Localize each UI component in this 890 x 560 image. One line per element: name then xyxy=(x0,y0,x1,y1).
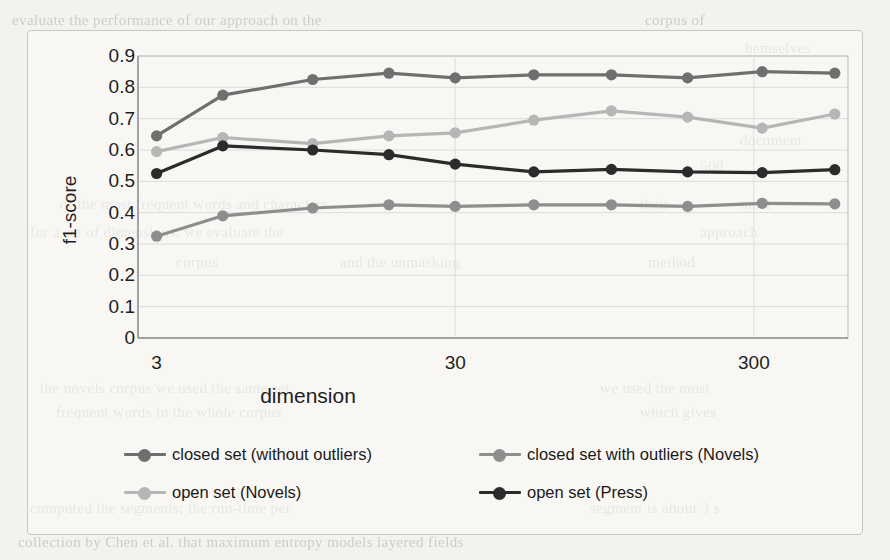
legend-item-label: open set (Press) xyxy=(527,484,648,501)
data-point xyxy=(217,140,228,151)
x-axis-tick-label: 30 xyxy=(445,353,466,372)
data-point xyxy=(682,166,693,177)
x-axis-tick-label: 3 xyxy=(151,353,162,372)
data-point xyxy=(682,72,693,83)
data-point xyxy=(682,112,693,123)
data-point xyxy=(151,231,162,242)
data-point xyxy=(383,199,394,210)
data-point xyxy=(450,201,461,212)
data-point xyxy=(757,167,768,178)
x-axis-tick-label: 300 xyxy=(738,353,770,372)
data-point xyxy=(528,199,539,210)
data-point xyxy=(151,130,162,141)
data-point xyxy=(217,210,228,221)
legend-swatch-icon xyxy=(124,447,166,461)
legend-item-label: open set (Novels) xyxy=(172,484,301,501)
data-point xyxy=(450,159,461,170)
series-line xyxy=(157,203,835,236)
legend-item[interactable]: closed set with outliers (Novels) xyxy=(479,446,759,463)
data-point xyxy=(606,69,617,80)
data-point xyxy=(307,144,318,155)
data-point xyxy=(450,72,461,83)
data-point xyxy=(151,146,162,157)
x-axis-title: dimension xyxy=(28,384,588,408)
series-line xyxy=(157,111,835,152)
series-3 xyxy=(151,140,840,179)
legend-swatch-icon xyxy=(124,485,166,499)
data-point xyxy=(757,66,768,77)
data-point xyxy=(829,198,840,209)
data-point xyxy=(757,123,768,134)
data-point xyxy=(606,164,617,175)
data-point xyxy=(307,202,318,213)
data-point xyxy=(528,166,539,177)
series-0 xyxy=(151,66,840,141)
data-point xyxy=(217,90,228,101)
legend-item-label: closed set with outliers (Novels) xyxy=(527,446,759,463)
legend-swatch-icon xyxy=(479,485,521,499)
legend-item-label: closed set (without outliers) xyxy=(172,446,372,463)
background-text-line: evaluate the performance of our approach… xyxy=(12,12,322,29)
series-2 xyxy=(151,105,840,157)
data-point xyxy=(606,105,617,116)
series-1 xyxy=(151,198,840,242)
data-point xyxy=(450,127,461,138)
data-point xyxy=(151,168,162,179)
legend-item[interactable]: open set (Press) xyxy=(479,484,648,501)
background-text-line: corpus of xyxy=(645,12,705,29)
data-point xyxy=(682,201,693,212)
legend-item[interactable]: closed set (without outliers) xyxy=(124,446,372,463)
legend-item[interactable]: open set (Novels) xyxy=(124,484,301,501)
background-text-line: collection by Chen et al. that maximum e… xyxy=(18,534,464,551)
data-point xyxy=(528,69,539,80)
data-point xyxy=(307,74,318,85)
plot-frame xyxy=(138,56,848,338)
data-point xyxy=(383,130,394,141)
data-point xyxy=(606,199,617,210)
legend-swatch-icon xyxy=(479,447,521,461)
data-point xyxy=(829,108,840,119)
chart-figure: f1-score 00.10.20.30.40.50.60.70.80.9 33… xyxy=(27,30,863,535)
chart-plot-container: f1-score 00.10.20.30.40.50.60.70.80.9 33… xyxy=(28,31,864,536)
x-axis-tick-labels: 330300 xyxy=(28,353,864,379)
data-point xyxy=(757,198,768,209)
data-point xyxy=(829,68,840,79)
data-point xyxy=(829,164,840,175)
data-point xyxy=(383,68,394,79)
chart-legend: closed set (without outliers)closed set … xyxy=(124,446,824,516)
data-point xyxy=(528,115,539,126)
data-point xyxy=(383,149,394,160)
chart-svg xyxy=(28,31,864,391)
